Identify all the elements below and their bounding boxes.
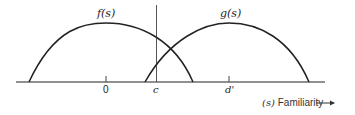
g-curve-label: g(s) [220,8,241,19]
tick-label-d-prime: d' [225,85,234,95]
axis-title: Familiarity [278,97,324,108]
f-curve-label: f(s) [97,8,115,19]
axis-label: (s) Familiarity [262,98,323,108]
f-curve [29,23,193,82]
axis-variable: (s) [262,97,275,108]
axis-arrow-icon [330,101,335,106]
g-curve [145,23,309,82]
tick-label-criterion: c [153,85,159,95]
tick-label-zero: 0 [103,85,109,95]
